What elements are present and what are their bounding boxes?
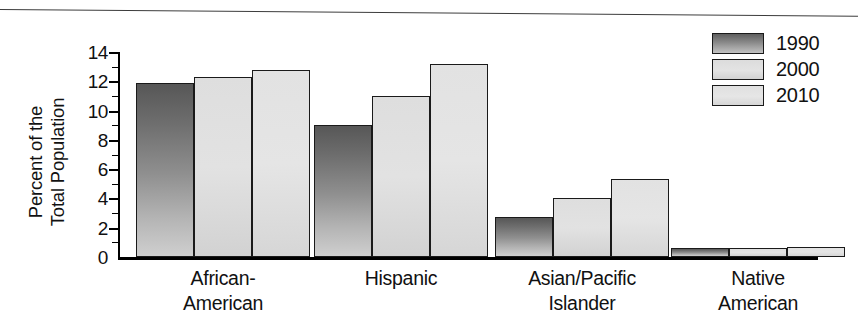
y-tick-minor — [112, 155, 120, 156]
legend-entry: 2010 — [712, 85, 852, 107]
bar — [314, 125, 372, 257]
legend-label: 1990 — [776, 32, 819, 54]
y-tick-major — [109, 52, 120, 54]
bar — [787, 247, 845, 257]
y-axis-title: Percent of the Total Population — [25, 55, 69, 270]
y-tick-minor — [112, 125, 120, 126]
y-tick-major — [109, 228, 120, 230]
bar — [671, 248, 729, 257]
y-tick-major — [109, 169, 120, 171]
y-tick-label: 6 — [74, 160, 108, 179]
bar — [495, 217, 553, 257]
legend-swatch — [712, 33, 764, 54]
legend-label: 2000 — [776, 58, 819, 80]
bar — [252, 70, 310, 257]
bar — [372, 96, 430, 257]
x-category-label: Hispanic — [311, 266, 491, 291]
y-tick-label: 4 — [74, 189, 108, 208]
y-tick-label: 2 — [74, 219, 108, 238]
chart-legend: 199020002010 — [712, 33, 852, 111]
y-tick-minor — [112, 242, 120, 243]
x-category-label: Native American — [668, 266, 848, 316]
legend-entry: 2000 — [712, 59, 852, 81]
y-tick-minor — [112, 213, 120, 214]
x-category-label: Asian/Pacific Islander — [492, 266, 672, 316]
y-axis-tick-labels: 02468101214 — [74, 52, 108, 258]
x-category-label: African- American — [133, 266, 313, 316]
bar — [611, 179, 669, 257]
y-tick-label: 12 — [74, 72, 108, 91]
bar — [553, 198, 611, 257]
y-tick-label: 14 — [74, 43, 108, 62]
y-tick-minor — [112, 96, 120, 97]
y-tick-label: 10 — [74, 102, 108, 121]
y-tick-major — [109, 111, 120, 113]
y-tick-minor — [112, 184, 120, 185]
y-tick-minor — [112, 67, 120, 68]
legend-label: 2010 — [776, 84, 819, 106]
bar — [729, 248, 787, 257]
bar — [194, 77, 252, 257]
y-tick-label: 8 — [74, 131, 108, 150]
legend-swatch — [712, 85, 764, 106]
legend-swatch — [712, 59, 764, 80]
y-tick-label: 0 — [74, 248, 108, 267]
x-axis-category-labels: African- AmericanHispanicAsian/Pacific I… — [118, 266, 818, 332]
bar — [136, 83, 194, 257]
bar — [430, 64, 488, 257]
x-axis-baseline — [118, 257, 818, 260]
legend-entry: 1990 — [712, 33, 852, 55]
y-tick-major — [109, 198, 120, 200]
y-tick-major — [109, 140, 120, 142]
y-tick-major — [109, 81, 120, 83]
